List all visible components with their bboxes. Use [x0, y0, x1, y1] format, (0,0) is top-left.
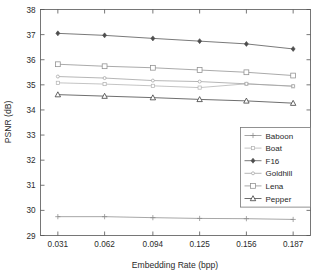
legend-label: Pepper	[266, 195, 292, 204]
y-tick-label: 30	[26, 206, 36, 215]
x-tick-label: 0.062	[94, 240, 115, 249]
y-axis-label: PSNR (dB)	[3, 101, 13, 144]
legend-label: Boat	[266, 144, 283, 153]
data-point-marker	[291, 46, 295, 51]
data-point-marker	[252, 172, 255, 175]
series-line	[58, 33, 293, 49]
x-tick-label: 0.187	[283, 240, 304, 249]
y-tick-label: 35	[26, 81, 36, 90]
series-pepper	[55, 92, 296, 106]
x-axis-label: Embedding Rate (bpp)	[132, 260, 219, 270]
x-tick-label: 0.031	[48, 240, 69, 249]
data-point-marker	[103, 82, 106, 85]
psnr-vs-embedding-rate-chart: 29303132333435363738 0.0310.0620.0940.12…	[0, 0, 323, 275]
chart-figure: 29303132333435363738 0.0310.0620.0940.12…	[0, 0, 323, 275]
data-point-marker	[102, 64, 107, 69]
data-point-marker	[151, 79, 154, 82]
y-tick-label: 32	[26, 156, 36, 165]
data-point-marker	[244, 70, 249, 75]
series-goldhill	[56, 75, 294, 88]
y-tick-label: 31	[26, 181, 36, 190]
data-point-marker	[292, 85, 295, 88]
data-point-marker	[103, 33, 107, 38]
data-point-marker	[244, 41, 248, 46]
data-point-marker	[291, 73, 296, 78]
x-tick-label: 0.125	[189, 240, 210, 249]
data-point-marker	[150, 65, 155, 70]
series-line	[58, 217, 293, 220]
data-point-marker	[151, 84, 154, 87]
y-tick-label: 34	[26, 106, 36, 115]
legend-label: Goldhill	[266, 169, 293, 178]
y-tick-label: 37	[26, 31, 36, 40]
series-line	[58, 95, 293, 104]
y-tick-label: 36	[26, 56, 36, 65]
x-axis-tick-labels: 0.0310.0620.0940.1250.1560.187	[48, 240, 304, 249]
series-line	[58, 77, 293, 87]
data-point-marker	[251, 184, 256, 189]
legend-label: F16	[266, 157, 280, 166]
x-tick-label: 0.094	[143, 240, 164, 249]
y-tick-label: 29	[26, 232, 36, 241]
data-point-marker	[56, 81, 59, 84]
data-point-marker	[245, 82, 248, 85]
data-point-marker	[197, 68, 202, 73]
legend-label: Lena	[266, 182, 284, 191]
data-point-marker	[198, 39, 202, 44]
legend-label: Baboon	[266, 132, 294, 141]
series-boat	[56, 81, 295, 89]
data-point-marker	[103, 77, 106, 80]
series-f16	[56, 31, 295, 52]
series-baboon	[55, 214, 296, 222]
data-point-marker	[151, 36, 155, 41]
data-point-marker	[56, 31, 60, 36]
data-point-marker	[198, 86, 201, 89]
series-line	[58, 83, 293, 88]
y-axis-tick-labels: 29303132333435363738	[26, 6, 36, 241]
data-point-marker	[56, 75, 59, 78]
y-tick-label: 38	[26, 6, 36, 15]
data-point-marker	[198, 80, 201, 83]
series-lena	[55, 62, 295, 78]
series-line	[58, 64, 293, 75]
chart-legend[interactable]: BaboonBoatF16GoldhillLenaPepper	[241, 128, 311, 208]
x-tick-label: 0.156	[236, 240, 257, 249]
data-point-marker	[55, 62, 60, 67]
y-tick-label: 33	[26, 131, 36, 140]
data-point-marker	[251, 147, 254, 150]
